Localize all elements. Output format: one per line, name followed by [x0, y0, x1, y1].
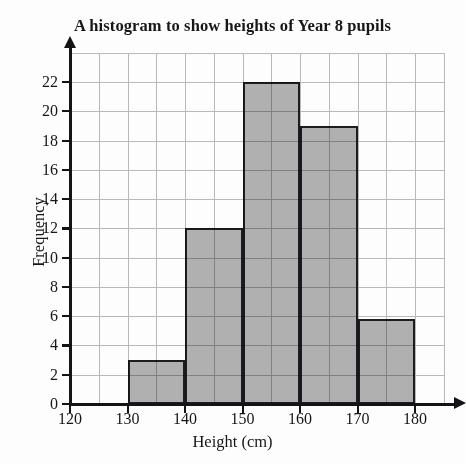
x-axis-tick-label: 170	[346, 410, 370, 428]
grid-line-vertical	[99, 53, 100, 404]
x-axis-arrow-icon	[454, 397, 466, 409]
grid-line-vertical	[156, 53, 157, 404]
y-axis-tick	[62, 110, 71, 112]
y-axis-title: Frequency	[29, 197, 49, 267]
x-axis-tick-label: 150	[231, 410, 255, 428]
y-axis-tick	[62, 374, 71, 376]
y-axis-tick-label: 6	[50, 307, 58, 325]
y-axis-tick-label: 20	[42, 102, 58, 120]
y-axis-tick-label: 4	[50, 336, 58, 354]
y-axis-tick-label: 8	[50, 278, 58, 296]
histogram-bar	[128, 360, 186, 404]
y-axis-tick	[62, 286, 71, 288]
y-axis-arrow-icon	[64, 36, 76, 48]
x-axis-tick-label: 140	[173, 410, 197, 428]
y-axis-tick-label: 16	[42, 161, 58, 179]
x-axis-tick-label: 180	[403, 410, 427, 428]
chart-title: A histogram to show heights of Year 8 pu…	[0, 16, 465, 36]
histogram-bar	[300, 126, 358, 404]
y-axis-tick	[62, 257, 71, 259]
grid-line-vertical	[444, 53, 445, 404]
histogram-bar	[243, 82, 301, 404]
y-axis-tick	[62, 140, 71, 142]
x-axis-tick-label: 120	[58, 410, 82, 428]
y-axis-tick	[62, 227, 71, 229]
histogram-bar	[358, 319, 416, 404]
y-axis-tick-label: 0	[50, 395, 58, 413]
grid-line-vertical	[415, 53, 416, 404]
y-axis-tick	[62, 344, 71, 346]
x-axis-title: Height (cm)	[0, 432, 465, 452]
histogram-bar	[185, 228, 243, 404]
y-axis-tick	[62, 169, 71, 171]
y-axis-tick-label: 22	[42, 73, 58, 91]
y-axis-tick-label: 18	[42, 132, 58, 150]
y-axis-tick	[62, 81, 71, 83]
y-axis-tick	[62, 315, 71, 317]
plot-area: 0246810121416182022120130140150160170180	[70, 58, 445, 404]
y-axis-tick-label: 2	[50, 366, 58, 384]
y-axis-tick	[62, 198, 71, 200]
grid-line-horizontal	[70, 53, 445, 54]
grid-line-vertical	[128, 53, 129, 404]
x-axis-tick-label: 130	[116, 410, 140, 428]
x-axis-tick-label: 160	[288, 410, 312, 428]
y-axis-line	[69, 46, 72, 404]
